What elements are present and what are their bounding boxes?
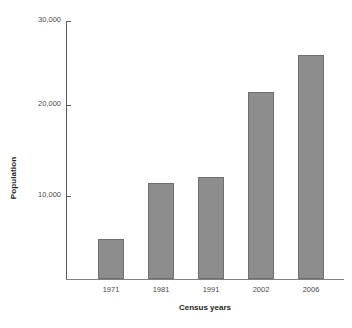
bar-group-2002: 2002 — [236, 21, 286, 279]
x-tick-label-2002: 2002 — [236, 285, 286, 294]
plot-area: 30,000 20,000 10,000 1971 1981 1991 — [66, 21, 344, 279]
bar-chart-figure: Population 30,000 20,000 10,000 1971 198… — [0, 0, 352, 328]
bar-1991[interactable] — [198, 177, 224, 279]
bars-layer: 1971 1981 1991 2002 2006 — [66, 21, 344, 279]
bar-1981[interactable] — [148, 183, 174, 279]
x-tick-label-2006: 2006 — [286, 285, 336, 294]
y-axis-title: Population — [0, 0, 26, 328]
x-tick-label-1981: 1981 — [136, 285, 186, 294]
bar-1971[interactable] — [98, 239, 124, 279]
x-tick-label-1971: 1971 — [86, 285, 136, 294]
y-axis-title-label: Population — [9, 157, 18, 199]
x-tick-label-1991: 1991 — [186, 285, 236, 294]
bar-group-1991: 1991 — [186, 21, 236, 279]
bar-group-1971: 1971 — [86, 21, 136, 279]
bar-2002[interactable] — [248, 92, 274, 279]
bar-group-1981: 1981 — [136, 21, 186, 279]
y-tick-label-10000: 10,000 — [38, 190, 61, 199]
x-axis-line — [66, 279, 344, 280]
x-axis-title: Census years — [66, 303, 344, 312]
y-tick-label-30000: 30,000 — [38, 15, 61, 24]
bar-group-2006: 2006 — [286, 21, 336, 279]
bar-2006[interactable] — [298, 55, 324, 279]
y-tick-label-20000: 20,000 — [38, 99, 61, 108]
